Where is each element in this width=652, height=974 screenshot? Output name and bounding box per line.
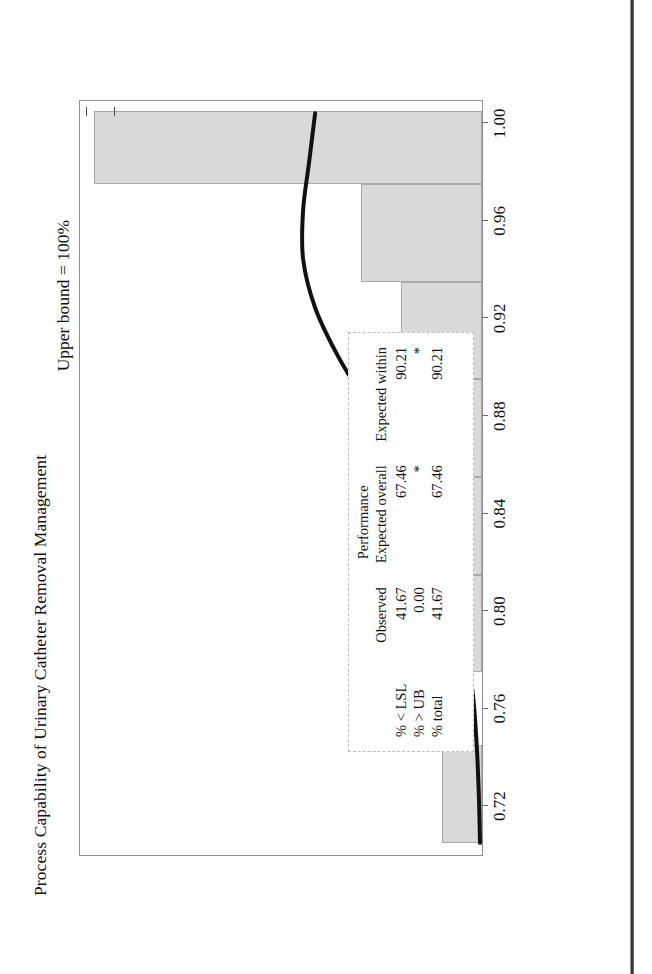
cell-expected-overall: *: [411, 461, 429, 583]
rotated-figure-stage: Process Capability of Urinary Catheter R…: [26, 72, 626, 902]
page-title: Process Capability of Urinary Catheter R…: [30, 455, 51, 896]
cell-observed: 0.00: [411, 583, 429, 656]
group-header-spacer-observed: [355, 583, 373, 656]
scan-page-edge: [630, 0, 634, 974]
upper-bound-tick-top: [86, 107, 87, 116]
column-header-expected-overall: Expected overall: [373, 461, 394, 583]
x-axis-tick-label: 0.96: [490, 206, 510, 236]
group-header-performance: Performance: [355, 461, 373, 583]
table-group-header-row: Performance: [355, 343, 373, 741]
cell-expected-within: 90.21: [393, 343, 411, 461]
x-axis-tick-label: 0.88: [490, 401, 510, 431]
column-header-blank: [373, 657, 394, 741]
x-axis-tick-label: 0.92: [490, 304, 510, 334]
x-axis-tick-label: 0.80: [490, 596, 510, 626]
x-axis-tick: [482, 220, 488, 221]
cell-expected-overall: 67.46: [429, 461, 447, 583]
x-axis-tick: [482, 122, 488, 123]
x-axis-tick: [482, 610, 488, 611]
row-label: % total: [429, 657, 447, 741]
upper-bound-annotation: Upper bound = 100%: [53, 220, 74, 371]
x-axis-tick-label: 0.84: [490, 499, 510, 529]
scanned-figure-page: Process Capability of Urinary Catheter R…: [0, 0, 652, 974]
performance-table: Performance Observed Expected overall Ex…: [355, 343, 446, 741]
group-header-spacer: [355, 657, 373, 741]
table-column-header-row: Observed Expected overall Expected withi…: [373, 343, 394, 741]
cell-expected-within: 90.21: [429, 343, 447, 461]
performance-table-body: % < LSL41.6767.4690.21% > UB0.00**% tota…: [393, 343, 446, 741]
column-header-expected-within: Expected within: [373, 343, 394, 461]
row-label: % > UB: [411, 657, 429, 741]
cell-observed: 41.67: [393, 583, 411, 656]
group-header-spacer-within: [355, 343, 373, 461]
x-axis-tick-label: 0.76: [490, 694, 510, 724]
cell-observed: 41.67: [429, 583, 447, 656]
x-axis-tick: [482, 415, 488, 416]
x-axis-tick: [482, 317, 488, 318]
performance-table-box: Performance Observed Expected overall Ex…: [348, 332, 474, 752]
x-axis-tick-label: 1.00: [490, 109, 510, 139]
x-axis-tick-label: 0.72: [490, 791, 510, 821]
x-axis-tick: [482, 805, 488, 806]
upper-bound-tick-lower: [114, 107, 115, 116]
cell-expected-overall: 67.46: [393, 461, 411, 583]
cell-expected-within: *: [411, 343, 429, 461]
x-axis-tick: [482, 513, 488, 514]
table-row: % > UB0.00**: [411, 343, 429, 741]
table-row: % total41.6767.4690.21: [429, 343, 447, 741]
column-header-observed: Observed: [373, 583, 394, 656]
row-label: % < LSL: [393, 657, 411, 741]
x-axis-tick: [482, 708, 488, 709]
table-row: % < LSL41.6767.4690.21: [393, 343, 411, 741]
